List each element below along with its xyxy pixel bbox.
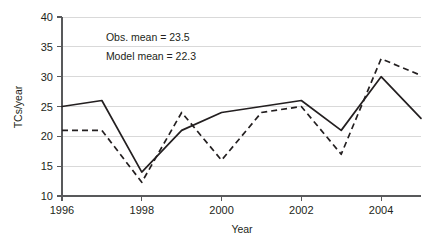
x-axis-ticks-group: 19961998200020022004 xyxy=(50,196,394,216)
y-tick-label-35: 35 xyxy=(41,41,53,53)
x-axis-title: Year xyxy=(231,223,253,235)
chart-annotation-1: Model mean = 22.3 xyxy=(106,50,196,62)
x-tick-label-2000: 2000 xyxy=(209,204,233,216)
y-tick-label-40: 40 xyxy=(41,11,53,23)
chart-figure: 10152025303540 19961998200020022004 Obs.… xyxy=(0,0,435,249)
x-tick-label-1996: 1996 xyxy=(50,204,74,216)
y-axis-title: TCs/year xyxy=(12,85,24,128)
y-axis-ticks-group: 10152025303540 xyxy=(41,11,62,202)
chart-annotation-0: Obs. mean = 23.5 xyxy=(106,31,190,43)
y-tick-label-25: 25 xyxy=(41,101,53,113)
y-tick-label-15: 15 xyxy=(41,160,53,172)
x-tick-label-2002: 2002 xyxy=(289,204,313,216)
y-tick-label-20: 20 xyxy=(41,130,53,142)
line-chart: 10152025303540 19961998200020022004 Obs.… xyxy=(0,0,435,249)
y-tick-label-30: 30 xyxy=(41,71,53,83)
x-tick-label-1998: 1998 xyxy=(130,204,154,216)
series-line-model xyxy=(62,59,421,183)
y-tick-label-10: 10 xyxy=(41,190,53,202)
x-tick-label-2004: 2004 xyxy=(369,204,393,216)
